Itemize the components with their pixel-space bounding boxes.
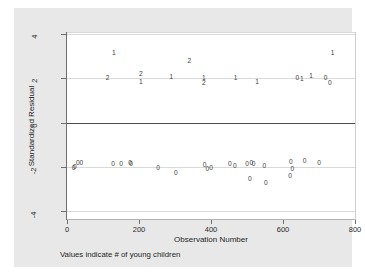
- scatter-point: 0: [264, 180, 268, 187]
- scatter-point: 2: [106, 75, 110, 82]
- scatter-point: 0: [252, 161, 256, 168]
- scatter-point: 0: [119, 161, 123, 168]
- y-tick-label: -4: [30, 212, 39, 219]
- scatter-point: 0: [233, 162, 237, 169]
- scatter-point: 0: [296, 75, 300, 82]
- scatter-point: 0: [317, 160, 321, 167]
- x-tick-mark: [283, 220, 284, 224]
- x-tick-label: 800: [349, 225, 362, 234]
- scatter-point: 1: [255, 78, 259, 85]
- y-tick-mark: [61, 78, 67, 79]
- x-tick-mark: [355, 220, 356, 224]
- scatter-point: 0: [324, 75, 328, 82]
- scatter-point: 0: [174, 170, 178, 177]
- scatter-point: 0: [80, 160, 84, 167]
- scatter-point: 0: [262, 163, 266, 170]
- x-tick-label: 0: [65, 225, 69, 234]
- scatter-point: 0: [111, 161, 115, 168]
- y-tick-label: -2: [30, 167, 39, 174]
- scatter-point: 1: [234, 75, 238, 82]
- x-tick-label: 200: [133, 225, 146, 234]
- scatter-point: 2: [202, 80, 206, 87]
- scatter-point: 0: [129, 161, 133, 168]
- gridline-y--4: [67, 211, 355, 212]
- y-axis-spine: [66, 32, 67, 220]
- gridline-y-4: [67, 34, 355, 35]
- y-tick-label: 2: [30, 79, 39, 83]
- x-tick-mark: [139, 220, 140, 224]
- scatter-point: 1: [170, 74, 174, 81]
- scatter-point: 0: [328, 79, 332, 86]
- figure-footnote: Values indicate # of young children: [60, 250, 180, 259]
- scatter-point: 1: [112, 50, 116, 57]
- x-tick-label: 600: [277, 225, 290, 234]
- plot-panel: [67, 32, 355, 220]
- scatter-point: 0: [228, 161, 232, 168]
- y-axis-label: Standardized Residual: [27, 86, 36, 167]
- axis-frame-right: [355, 32, 356, 220]
- y-tick-label: 4: [30, 35, 39, 39]
- x-tick-mark: [67, 220, 68, 224]
- zero-reference-line: [67, 123, 355, 124]
- x-tick-label: 400: [205, 225, 218, 234]
- scatter-point: 0: [303, 158, 307, 165]
- scatter-point: 1: [331, 50, 335, 57]
- y-tick-mark: [61, 167, 67, 168]
- scatter-point: 0: [245, 161, 249, 168]
- y-tick-mark: [61, 34, 67, 35]
- scatter-point: 0: [209, 165, 213, 172]
- scatter-point: 1: [300, 75, 304, 82]
- scatter-point: 2: [188, 58, 192, 65]
- x-axis-label: Observation Number: [174, 235, 248, 244]
- scatter-point: 1: [139, 78, 143, 85]
- x-tick-mark: [211, 220, 212, 224]
- scatter-point: 0: [248, 176, 252, 183]
- y-tick-mark: [61, 123, 67, 124]
- figure-root: 420-2-4 0200400600800 000012000021010212…: [0, 0, 365, 277]
- scatter-point: 0: [288, 173, 292, 180]
- axis-frame-top: [66, 32, 356, 33]
- scatter-point: 1: [309, 73, 313, 80]
- y-tick-mark: [61, 211, 67, 212]
- figure-canvas: 420-2-4 0200400600800 000012000021010212…: [14, 8, 352, 267]
- scatter-point: 0: [156, 165, 160, 172]
